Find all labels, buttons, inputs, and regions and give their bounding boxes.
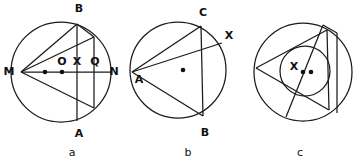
panel-b: C X A B	[130, 6, 234, 139]
panel-c-center-dot	[309, 70, 314, 75]
panel-a-chord-m-b	[21, 24, 77, 72]
panel-a-midpoint-dot	[60, 70, 65, 75]
caption-b: b	[185, 146, 192, 159]
panel-a-center-dot	[43, 70, 48, 75]
panel-b-chord-ax	[132, 43, 222, 72]
panel-a-label-a: A	[75, 127, 84, 140]
panel-b-label-a: A	[135, 73, 144, 86]
panel-b-label-x: X	[225, 29, 234, 42]
panel-c-incenter-dot	[301, 70, 306, 75]
figure-canvas: B M O X Q N A C X A B	[0, 0, 361, 164]
panel-a-label-o: O	[57, 55, 66, 68]
panel-b-side-ac	[132, 26, 201, 72]
panel-a-label-b: B	[75, 2, 83, 15]
panel-a-label-q: Q	[90, 55, 99, 68]
panel-b-side-cb	[201, 26, 203, 116]
panel-a: B M O X Q N A	[4, 2, 119, 140]
panel-c-label-x: X	[290, 60, 299, 73]
caption-c: c	[297, 146, 303, 159]
geometry-figure: B M O X Q N A C X A B	[0, 0, 361, 164]
panel-b-label-c: C	[199, 6, 207, 19]
panel-b-label-b: B	[201, 126, 209, 139]
panel-a-label-x: X	[73, 55, 82, 68]
panel-c-side-left-bottom	[256, 68, 329, 110]
panel-b-circle	[130, 22, 226, 118]
panel-a-chord-m-lower	[21, 72, 94, 108]
panel-a-label-n: N	[109, 65, 118, 78]
panel-a-connector-top	[77, 24, 94, 37]
panel-c-side-right	[327, 30, 329, 110]
panel-c: X	[254, 23, 352, 121]
panel-captions: a b c	[69, 146, 303, 159]
panel-a-label-m: M	[4, 65, 15, 78]
caption-a: a	[69, 146, 76, 159]
panel-b-center-dot	[181, 68, 186, 73]
